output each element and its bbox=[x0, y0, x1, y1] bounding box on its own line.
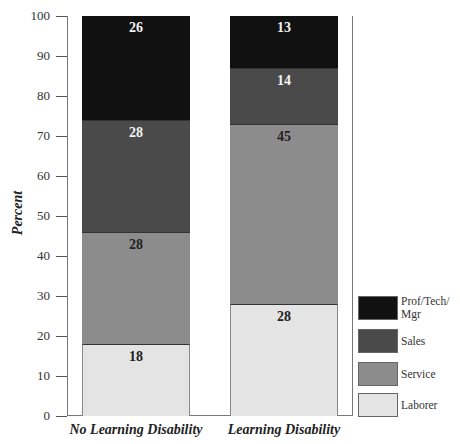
value-label: 28 bbox=[82, 237, 190, 253]
value-label: 18 bbox=[83, 349, 189, 365]
x-label-no-learning-disability: No Learning Disability bbox=[60, 422, 212, 438]
segment-sales: 28 bbox=[82, 120, 190, 232]
value-label: 26 bbox=[82, 20, 190, 36]
legend-swatch-prof-tech-mgr bbox=[358, 296, 398, 320]
y-tick bbox=[56, 96, 67, 97]
legend-label-line: Mgr bbox=[401, 308, 449, 321]
y-tick-label: 10 bbox=[10, 369, 50, 383]
segment-service: 28 bbox=[82, 232, 190, 344]
segment-laborer: 28 bbox=[230, 304, 338, 416]
segment-prof-tech-mgr: 26 bbox=[82, 16, 190, 120]
y-tick bbox=[56, 16, 67, 17]
legend-label-line: Prof/Tech/ bbox=[401, 295, 449, 308]
y-tick-label: 70 bbox=[10, 129, 50, 143]
legend-swatch-sales bbox=[358, 329, 398, 353]
y-tick bbox=[56, 256, 67, 257]
y-tick-label: 90 bbox=[10, 49, 50, 63]
value-label: 28 bbox=[82, 125, 190, 141]
segment-laborer: 18 bbox=[82, 344, 190, 416]
legend-label-laborer: Laborer bbox=[401, 399, 437, 412]
y-tick bbox=[56, 136, 67, 137]
value-label: 14 bbox=[230, 73, 338, 89]
x-label-learning-disability: Learning Disability bbox=[214, 422, 354, 438]
legend-swatch-service bbox=[358, 362, 398, 386]
segment-sales: 14 bbox=[230, 68, 338, 124]
y-tick bbox=[56, 216, 67, 217]
y-tick-label: 0 bbox=[10, 409, 50, 423]
value-label: 13 bbox=[230, 20, 338, 36]
y-tick-label: 60 bbox=[10, 169, 50, 183]
value-label: 28 bbox=[231, 309, 337, 325]
segment-service: 45 bbox=[230, 124, 338, 304]
y-tick bbox=[56, 296, 67, 297]
y-tick-label: 80 bbox=[10, 89, 50, 103]
y-tick-label: 100 bbox=[10, 9, 50, 23]
y-tick bbox=[56, 416, 67, 417]
y-tick-label: 40 bbox=[10, 249, 50, 263]
legend-label-service: Service bbox=[401, 368, 435, 381]
legend-label-prof-tech-mgr: Prof/Tech/ Mgr bbox=[401, 295, 449, 321]
y-tick bbox=[56, 376, 67, 377]
legend-swatch-laborer bbox=[358, 393, 398, 417]
legend-label-sales: Sales bbox=[401, 335, 425, 348]
y-tick bbox=[56, 176, 67, 177]
y-tick bbox=[56, 336, 67, 337]
y-tick-label: 20 bbox=[10, 329, 50, 343]
y-tick-label: 30 bbox=[10, 289, 50, 303]
segment-prof-tech-mgr: 13 bbox=[230, 16, 338, 68]
value-label: 45 bbox=[230, 129, 338, 145]
y-axis-label: Percent bbox=[10, 183, 26, 243]
y-tick bbox=[56, 56, 67, 57]
